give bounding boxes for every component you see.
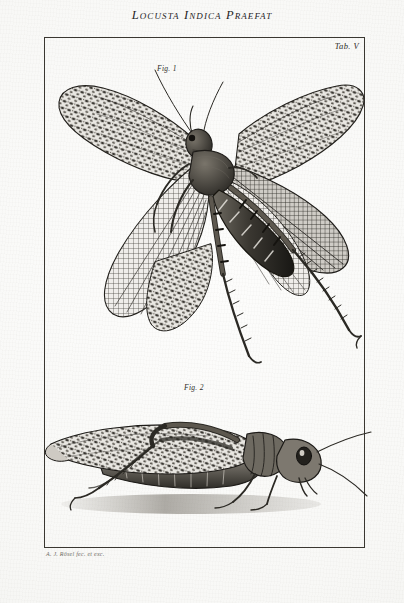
figure-2-illustration	[41, 378, 362, 548]
plate-frame: Tab. V Fig. 1 Fig. 2	[44, 37, 365, 548]
thorax	[189, 151, 234, 195]
forewing-right	[233, 85, 364, 187]
engraver-signature: A. J. Rösel fec. et exc.	[46, 551, 104, 557]
forewing-left	[59, 86, 195, 182]
figure-1-illustration	[43, 48, 364, 378]
head-lateral	[277, 439, 322, 496]
antennae	[317, 432, 371, 496]
plate-title: Locusta Indica Praefat	[0, 8, 404, 23]
